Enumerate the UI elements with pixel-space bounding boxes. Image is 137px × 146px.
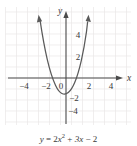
x-tick-label-2: 2 bbox=[87, 81, 92, 91]
caption-operator-plus: + bbox=[67, 134, 72, 144]
x-axis-label: x bbox=[126, 73, 132, 83]
x-tick-label-neg4: −4 bbox=[19, 81, 29, 91]
arrowhead-left-branch bbox=[37, 15, 42, 23]
caption-lhs: y bbox=[40, 134, 44, 144]
equation-caption: y = 2x2 + 3x − 2 bbox=[0, 132, 137, 144]
arrowhead-right-branch bbox=[86, 15, 91, 22]
caption-term3: 2 bbox=[93, 134, 98, 144]
caption-term1-exponent: 2 bbox=[62, 132, 65, 139]
coordinate-plane: −4 −2 2 4 4 2 −2 −4 0 x y bbox=[0, 0, 137, 146]
x-tick-label-4: 4 bbox=[109, 81, 114, 91]
graph-figure: −4 −2 2 4 4 2 −2 −4 0 x y y = 2x2 + 3x −… bbox=[0, 0, 137, 146]
y-tick-label-2: 2 bbox=[76, 52, 81, 62]
caption-equals: = bbox=[46, 134, 51, 144]
x-tick-label-neg2: −2 bbox=[41, 81, 51, 91]
caption-operator-minus: − bbox=[85, 134, 90, 144]
y-tick-label-neg4: −4 bbox=[68, 106, 78, 116]
y-tick-label-4: 4 bbox=[76, 30, 81, 40]
y-axis-label: y bbox=[57, 6, 63, 16]
origin-label: 0 bbox=[59, 81, 64, 91]
caption-term2: 3x bbox=[75, 134, 84, 144]
y-tick-label-neg2: −2 bbox=[69, 93, 79, 103]
